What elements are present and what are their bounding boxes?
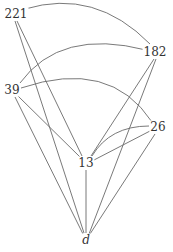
node-221: 221	[4, 8, 29, 21]
edge-221-182	[25, 3, 150, 44]
node-26: 26	[149, 121, 166, 134]
edge-39-13	[18, 96, 80, 157]
node-39: 39	[3, 84, 20, 97]
edge-26-d	[90, 134, 155, 234]
node-182: 182	[143, 46, 168, 59]
edge-39-d	[15, 97, 83, 234]
graph-edges	[0, 0, 173, 252]
node-13: 13	[77, 157, 94, 170]
edge-39-182	[20, 44, 146, 83]
node-d: d	[81, 234, 91, 247]
edge-13-26-line	[94, 131, 150, 160]
edge-182-13	[91, 59, 154, 156]
edge-221-13	[17, 21, 82, 156]
